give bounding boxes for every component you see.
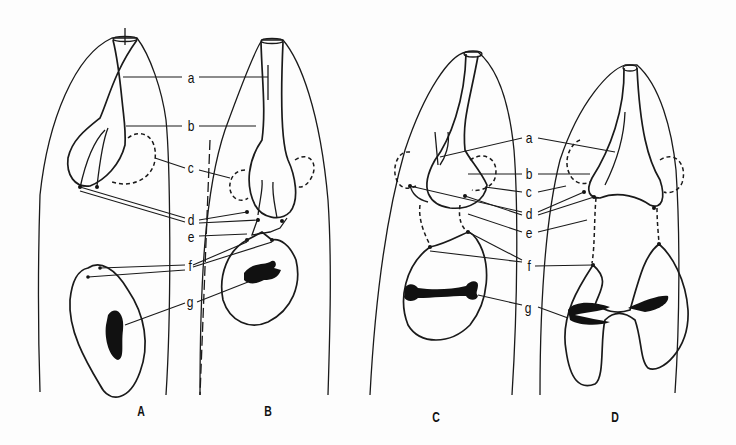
label-e-left: e [188,229,195,244]
label-b-right: b [526,166,533,181]
panel-label-b: B [264,404,272,418]
panel-label-d: D [611,410,619,424]
label-a-left: a [188,70,195,85]
panel-label-a: A [137,404,145,418]
label-c-left: c [188,160,194,175]
leader-lines-left [80,77,272,325]
panel-a-drawing [39,28,170,397]
panel-label-c: C [432,410,440,424]
label-c-right: c [526,184,532,199]
label-g-left: g [187,294,194,309]
label-f-right: f [527,258,530,273]
panel-d-drawing [540,65,688,395]
label-d-right: d [526,206,533,221]
label-e-right: e [526,225,533,240]
figure: a b c d e f g a b c d e f g A B C D [0,0,736,445]
drawing [0,0,736,445]
label-a-right: a [526,130,533,145]
label-d-left: d [188,212,195,227]
label-b-left: b [188,118,195,133]
label-g-right: g [525,300,532,315]
label-f-left: f [188,258,191,273]
